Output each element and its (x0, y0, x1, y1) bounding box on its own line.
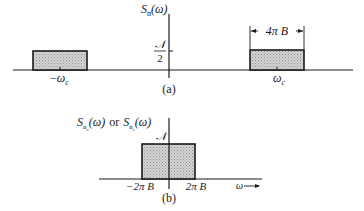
panel-b: Snc(ω)orSns(ω) 𝒩 −2π B 2π B ω (b) (77, 115, 262, 205)
panel-a-level-denominator: 2 (157, 52, 163, 64)
panel-b-x-axis-label: ω (236, 180, 243, 191)
bandwidth-dimension: 4π B (250, 24, 304, 49)
spectrum-diagram: 4π B Sn(ω) 𝒩 2 −ωc ωc (a) Snc(ω)orSns(ω)… (0, 0, 364, 211)
panel-b-caption: (b) (162, 191, 176, 205)
panel-a-right-band-label: ωc (273, 71, 285, 87)
arrow-right-icon (298, 29, 303, 33)
panel-a-level-numerator: 𝒩 (155, 38, 169, 50)
panel-a: 4π B Sn(ω) 𝒩 2 −ωc ωc (a) (13, 2, 353, 96)
panel-a-y-label: Sn(ω) (141, 2, 167, 18)
panel-b-y-label: Snc(ω)orSns(ω) (77, 115, 151, 132)
panel-b-level-label: 𝒩 (156, 130, 170, 142)
panel-b-right-edge-label: 2π B (186, 180, 207, 192)
panel-b-left-edge-label: −2π B (126, 180, 154, 192)
panel-a-left-band-label: −ωc (50, 71, 69, 87)
arrow-left-icon (251, 29, 256, 33)
x-axis-arrowhead-icon (255, 184, 260, 188)
bandwidth-label: 4π B (266, 24, 289, 38)
panel-a-caption: (a) (162, 82, 175, 96)
